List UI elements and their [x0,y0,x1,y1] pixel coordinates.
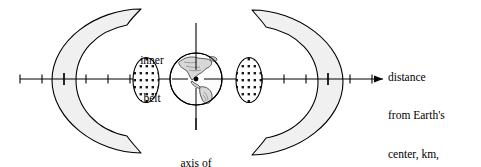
outer-belt-right [252,10,343,155]
earth-center-dot [194,77,199,82]
distance-note-label: distance from Earth's center, km, each d… [388,45,480,167]
inner-belt-label-line2: belt [126,92,178,105]
magnetic-axis-label: axis of magnetic field [141,131,251,167]
distance-note-line3: center, km, [388,148,480,161]
distance-note-line2: from Earth's [388,109,480,122]
distance-note-line1: distance [388,71,480,84]
inner-belt-label: inner belt [126,28,178,131]
magnetic-axis-label-line1: axis of [141,157,251,167]
radiation-belt-diagram: inner belt axis of magnetic field distan… [0,0,481,167]
inner-belt-label-line1: inner [126,54,178,67]
inner-belt-right [236,58,262,103]
